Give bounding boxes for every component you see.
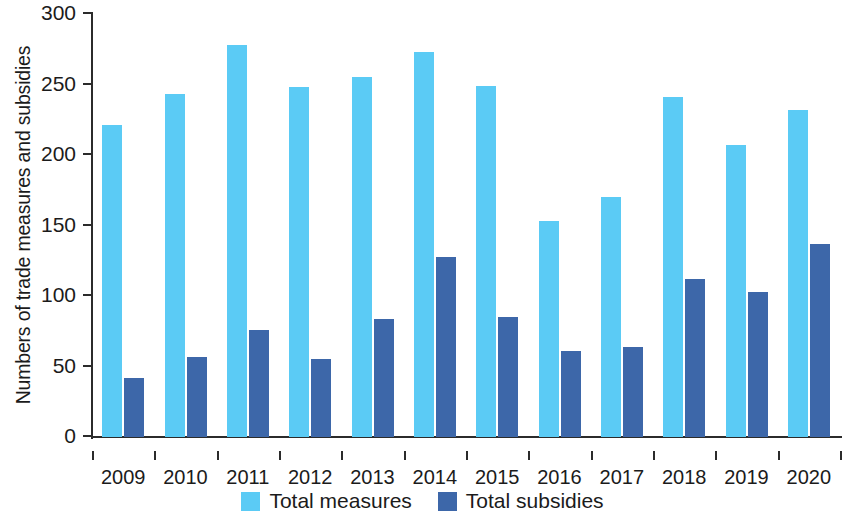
x-axis-label-2013: 2013 <box>350 466 395 489</box>
y-axis-tick-label: 0 <box>64 424 76 448</box>
x-axis-label-2020: 2020 <box>787 466 832 489</box>
y-axis-tick: 300 <box>83 12 92 14</box>
x-axis-label-2014: 2014 <box>413 466 458 489</box>
y-axis-tick: 250 <box>83 83 92 85</box>
y-axis-tick-label: 50 <box>53 354 76 378</box>
x-axis-tick <box>778 451 780 460</box>
bar-measures-2011 <box>227 45 247 437</box>
legend-label: Total subsidies <box>466 489 604 513</box>
bar-measures-2012 <box>289 87 309 437</box>
y-axis-tick-label: 300 <box>41 1 76 25</box>
y-axis-title: Numbers of trade measures and subsidies <box>4 0 42 450</box>
legend-swatch-subsidies <box>438 492 457 511</box>
bar-subsidies-2009 <box>124 378 144 437</box>
bar-measures-2018 <box>663 97 683 437</box>
x-axis-label-2018: 2018 <box>662 466 707 489</box>
bar-subsidies-2012 <box>311 359 331 437</box>
bar-subsidies-2019 <box>748 292 768 437</box>
bar-subsidies-2013 <box>374 319 394 437</box>
bar-measures-2014 <box>414 52 434 437</box>
y-axis-tick: 150 <box>83 224 92 226</box>
x-axis-tick <box>466 451 468 460</box>
bar-subsidies-2011 <box>249 330 269 437</box>
x-axis-tick <box>528 451 530 460</box>
chart-legend: Total measuresTotal subsidies <box>0 489 845 513</box>
y-axis-tick-label: 150 <box>41 213 76 237</box>
bar-subsidies-2020 <box>810 244 830 437</box>
x-axis-tick <box>217 451 219 460</box>
legend-swatch-measures <box>241 492 260 511</box>
x-axis-label-2016: 2016 <box>537 466 582 489</box>
x-axis-tick <box>653 451 655 460</box>
y-axis-tick: 0 <box>83 435 92 437</box>
bar-subsidies-2016 <box>561 351 581 437</box>
bar-measures-2020 <box>788 110 808 437</box>
x-axis-tick <box>154 451 156 460</box>
plot-area: 0501001502002503002009201020112012201320… <box>92 14 840 437</box>
x-axis-tick <box>840 451 842 460</box>
x-axis-label-2015: 2015 <box>475 466 520 489</box>
y-axis-tick-label: 250 <box>41 72 76 96</box>
legend-item-subsidies: Total subsidies <box>438 489 604 513</box>
bar-subsidies-2014 <box>436 257 456 437</box>
y-axis-tick: 100 <box>83 294 92 296</box>
bar-subsidies-2010 <box>187 357 207 437</box>
bar-subsidies-2015 <box>498 317 518 437</box>
x-axis-label-2009: 2009 <box>101 466 146 489</box>
bar-measures-2010 <box>165 94 185 437</box>
bar-measures-2013 <box>352 77 372 437</box>
legend-item-measures: Total measures <box>241 489 411 513</box>
bar-chart: Numbers of trade measures and subsidies … <box>0 0 845 522</box>
x-axis-label-2011: 2011 <box>226 466 269 489</box>
x-axis-tick <box>341 451 343 460</box>
bar-measures-2019 <box>726 145 746 437</box>
bar-measures-2017 <box>601 197 621 437</box>
y-axis-tick-label: 100 <box>41 283 76 307</box>
y-axis-tick: 50 <box>83 365 92 367</box>
y-axis-tick-label: 200 <box>41 142 76 166</box>
x-axis-tick <box>591 451 593 460</box>
legend-label: Total measures <box>269 489 411 513</box>
bar-subsidies-2018 <box>685 279 705 437</box>
x-axis-tick <box>279 451 281 460</box>
bar-measures-2015 <box>476 86 496 437</box>
y-axis-tick: 200 <box>83 153 92 155</box>
bar-measures-2016 <box>539 221 559 437</box>
x-axis-label-2010: 2010 <box>163 466 208 489</box>
x-axis-label-2019: 2019 <box>724 466 769 489</box>
bar-measures-2009 <box>102 125 122 437</box>
x-axis-label-2017: 2017 <box>600 466 645 489</box>
x-axis-tick <box>92 451 94 460</box>
x-axis-tick <box>715 451 717 460</box>
x-axis-label-2012: 2012 <box>288 466 333 489</box>
bar-subsidies-2017 <box>623 347 643 437</box>
x-axis-tick <box>404 451 406 460</box>
